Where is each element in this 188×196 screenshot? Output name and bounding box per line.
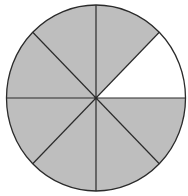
- center-point: [94, 96, 97, 99]
- fraction-circle-diagram: [0, 0, 188, 196]
